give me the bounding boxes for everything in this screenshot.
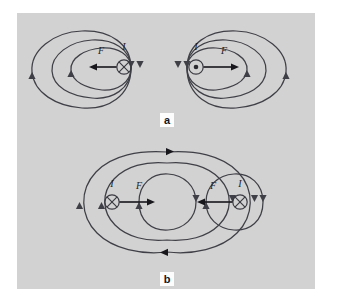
current-label: I	[121, 41, 126, 52]
force-label: F	[209, 180, 217, 191]
current-label: I	[109, 178, 114, 189]
force-label: F	[135, 180, 143, 191]
figure-container: I F I	[0, 0, 338, 302]
force-label: F	[220, 45, 228, 56]
panel-letter-a: a	[164, 114, 171, 126]
force-label: F	[97, 45, 105, 56]
current-label: I	[193, 41, 198, 52]
magnetic-field-diagram: I F I	[0, 0, 338, 302]
panel-letter-b: b	[164, 273, 171, 285]
current-symbol-dot	[194, 65, 199, 70]
current-label: I	[237, 178, 242, 189]
